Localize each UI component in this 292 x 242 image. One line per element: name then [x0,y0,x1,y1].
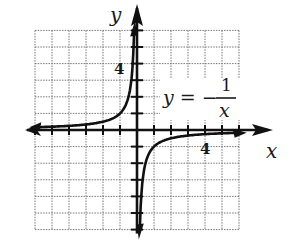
curve-branch-right [140,133,241,231]
equation-lhs: y = − [162,86,218,108]
y-tick-label-4: 4 [114,60,124,78]
equation-label: y = − 1 x [160,75,240,121]
x-axis-label: x [266,139,277,163]
curve-bottom-end-arrow-icon [137,224,144,240]
y-axis-label: y [109,3,122,27]
equation-denominator: x [219,99,230,121]
graph-canvas: y x 4 4 y = − 1 x [0,0,292,242]
equation-numerator: 1 [221,75,232,95]
x-tick-label-4: 4 [200,140,210,158]
